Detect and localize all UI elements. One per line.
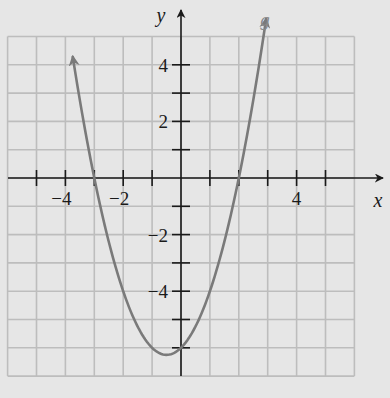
y-tick-label: −4: [148, 281, 169, 302]
x-tick-label: −4: [51, 188, 72, 209]
coordinate-plane: −4−2442−2−4 g x y: [0, 0, 390, 398]
y-tick-label: −2: [148, 225, 168, 246]
curve-g: [73, 18, 267, 355]
y-tick-label: 2: [159, 111, 169, 132]
x-tick-label: −2: [109, 188, 129, 209]
y-axis-label: y: [155, 4, 166, 27]
x-axis-label: x: [373, 189, 383, 211]
x-tick-label: 4: [292, 188, 302, 209]
curve-label-g: g: [260, 9, 270, 30]
y-tick-label: 4: [159, 55, 169, 76]
parabola-graph: −4−2442−2−4 g x y: [0, 0, 390, 398]
